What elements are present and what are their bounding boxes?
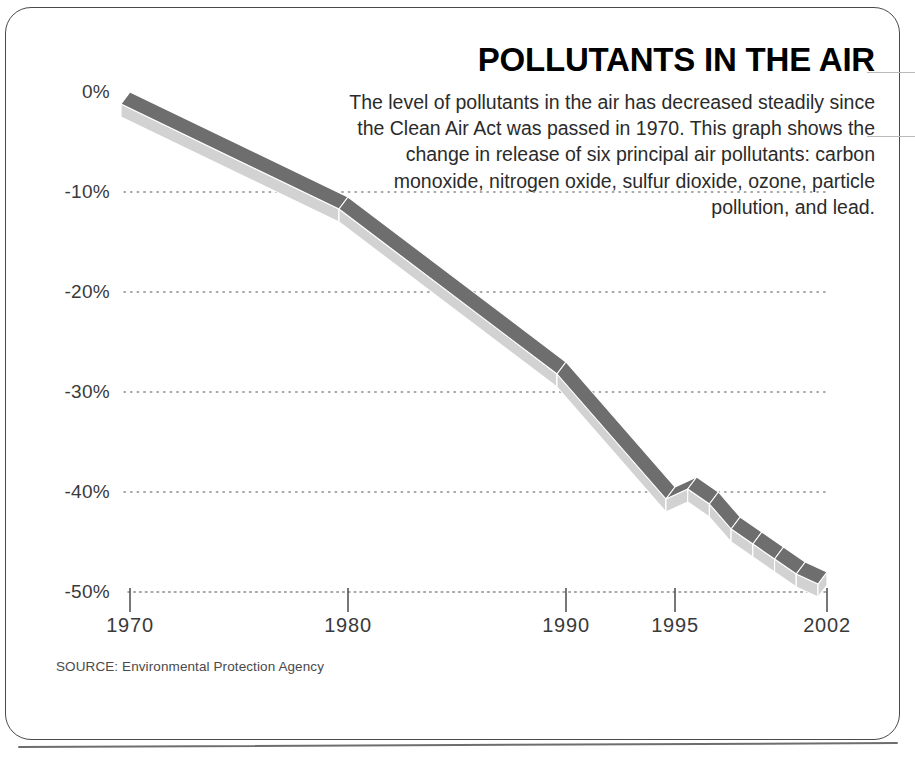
x-tick-label: 1995 (615, 614, 735, 637)
y-tick-label: -50% (28, 581, 110, 603)
chart-title: POLLUTANTS IN THE AIR (330, 43, 875, 78)
x-tick-label: 1990 (506, 614, 626, 637)
y-tick-label: -20% (28, 281, 110, 303)
x-tick-label: 1980 (288, 614, 408, 637)
x-tick-label: 2002 (767, 614, 887, 637)
y-tick-label: -40% (28, 481, 110, 503)
y-tick-label: -10% (28, 181, 110, 203)
chart-description: The level of pollutants in the air has d… (330, 89, 875, 220)
card-drop-shadow (18, 742, 898, 748)
source-note: SOURCE: Environmental Protection Agency (56, 659, 324, 674)
y-tick-label: 0% (28, 81, 110, 103)
x-tick-label: 1970 (70, 614, 190, 637)
y-tick-label: -30% (28, 381, 110, 403)
